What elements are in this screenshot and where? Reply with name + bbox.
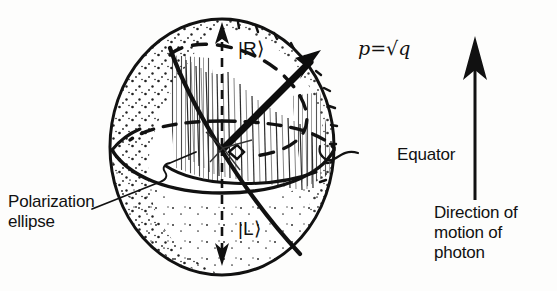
- poincare-sphere-figure: |R⟩ |L⟩ p=√q Equator Polarization ellips…: [0, 0, 557, 291]
- label-pole-bottom: |L⟩: [238, 218, 261, 240]
- label-direction-line1: Direction of: [434, 203, 518, 223]
- label-pole-top: |R⟩: [238, 38, 264, 60]
- label-direction-line2: motion of: [434, 223, 502, 243]
- label-polarization-ellipse-line2: ellipse: [8, 212, 55, 232]
- label-amplitude: p=√q: [358, 37, 410, 59]
- motion-arrow: [463, 36, 487, 200]
- label-direction-line3: photon: [434, 243, 485, 263]
- label-polarization-ellipse-line1: Polarization: [8, 192, 94, 212]
- label-equator: Equator: [397, 145, 455, 165]
